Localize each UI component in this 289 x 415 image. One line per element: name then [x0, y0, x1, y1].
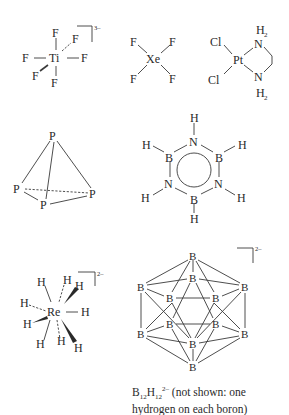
atom-label: H: [141, 191, 150, 205]
atom-label: B: [241, 281, 248, 293]
atom-label: B: [212, 318, 219, 330]
atom-label: Xe: [146, 52, 160, 66]
subscript: 2: [264, 94, 268, 102]
xef4-structure: Xe F F F F: [130, 35, 176, 86]
atom-label: B: [241, 328, 248, 340]
chemical-structures-diagram: Ti F F F F F F 3– Xe F F F F Pt Cl Cl N …: [0, 0, 289, 415]
atom-label: F: [130, 35, 137, 49]
b12h12-caption: B12H122– (not shown: one hydrogen on eac…: [132, 383, 289, 415]
atom-label: H: [36, 337, 45, 351]
atom-label: P: [13, 182, 20, 196]
atom-label: B: [190, 193, 198, 207]
atom-label: H: [23, 317, 32, 331]
atom-label: Cl: [208, 73, 220, 87]
p4-structure: P P P P: [13, 129, 96, 212]
atom-label: P: [89, 187, 96, 201]
atom-label: B: [189, 338, 196, 350]
atom-label: P: [49, 129, 56, 143]
atom-label: H: [74, 341, 83, 355]
charge-label: 3–: [94, 24, 101, 31]
atom-label: H: [75, 279, 84, 293]
atom-label: N: [164, 177, 173, 191]
tif6-structure: Ti F F F F F F 3–: [22, 24, 101, 90]
atom-label: B: [166, 292, 173, 304]
atom-label: H: [37, 275, 46, 289]
atom-label: B: [212, 292, 219, 304]
atom-label: F: [169, 35, 176, 49]
atom-label: Cl: [210, 35, 222, 49]
atom-label: N: [189, 135, 198, 149]
charge-label: 2–: [97, 270, 104, 277]
atom-label: B: [166, 318, 173, 330]
formula-atom: H: [147, 386, 155, 398]
atom-label: P: [40, 198, 47, 212]
subscript: 2: [264, 31, 268, 39]
b12h12-structure: B B B B B B B B B B B B 2–: [137, 245, 262, 373]
atom-label: Re: [47, 305, 60, 319]
atom-label: H: [238, 138, 247, 152]
atom-label: H: [81, 305, 90, 319]
atom-label: B: [137, 281, 144, 293]
formula-charge: 2–: [162, 385, 169, 393]
borazine-structure: H N B B N N B H H H H H: [141, 111, 247, 226]
atom-label: F: [81, 51, 88, 65]
formula-atom: B: [132, 386, 140, 398]
atom-label: Ti: [49, 51, 60, 65]
atom-label: N: [214, 177, 223, 191]
atom-label: B: [165, 151, 173, 165]
atom-label: N: [254, 70, 263, 84]
atom-label: H: [190, 212, 199, 226]
atom-label: Pt: [233, 53, 244, 67]
atom-label: F: [130, 72, 137, 86]
atom-label: B: [189, 250, 196, 262]
reh9-structure: Re H H H H H H H H H 2–: [20, 270, 104, 355]
atom-label: B: [215, 151, 223, 165]
atom-label: B: [189, 272, 196, 284]
atom-label: F: [51, 76, 58, 90]
atom-label: F: [22, 51, 29, 65]
atom-label: N: [254, 37, 263, 51]
atom-label: H: [190, 111, 199, 125]
atom-label: F: [169, 72, 176, 86]
atom-label: H: [57, 334, 66, 348]
caption-formula: B12H122–: [132, 386, 169, 398]
atom-label: F: [32, 69, 39, 83]
atom-label: F: [52, 26, 59, 40]
atom-label: H: [63, 273, 72, 287]
pt-complex-structure: Pt Cl Cl N N H 2 H 2: [208, 23, 272, 102]
atom-label: H: [142, 138, 151, 152]
formula-subscript: 12: [140, 393, 147, 401]
atom-label: H: [237, 191, 246, 205]
atom-label: F: [72, 32, 79, 46]
atom-label: B: [189, 361, 196, 373]
atom-label: H: [20, 296, 29, 310]
atom-label: B: [137, 328, 144, 340]
charge-label: 2–: [255, 245, 262, 252]
formula-subscript: 12: [155, 393, 162, 401]
